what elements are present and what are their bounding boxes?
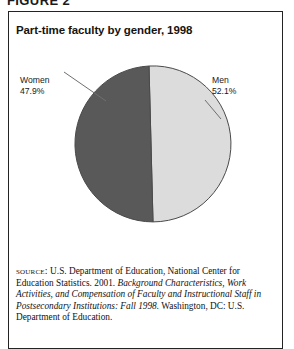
pie-label-men-name: Men [212,75,229,85]
figure-panel: Part-time faculty by gender, 1998 Women … [8,11,283,349]
figure-caption: FIGURE 2 [7,0,167,8]
page-title: Part-time faculty by gender, 1998 [16,24,192,36]
pie-label-women-name: Women [20,75,49,85]
pie-label-men-value: 52.1% [212,86,236,97]
pie-label-women-value: 47.9% [20,86,49,97]
pie-label-men: Men 52.1% [212,75,236,97]
pie-slice-women [75,66,153,222]
source-note: source: U.S. Department of Education, Na… [16,265,278,324]
pie-label-women: Women 47.9% [20,75,49,97]
pie-chart-svg [9,44,282,264]
source-label: source: [16,265,48,276]
pie-chart: Women 47.9% Men 52.1% [9,44,282,264]
